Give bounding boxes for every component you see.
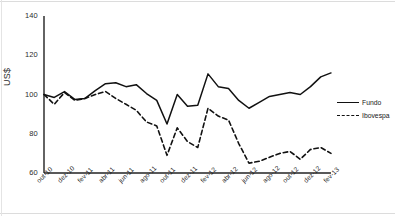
legend-item-ibovespa: Ibovespa: [337, 109, 390, 122]
chart-legend: Fundo Ibovespa: [337, 96, 390, 122]
axes: [44, 16, 331, 173]
legend-label-fundo: Fundo: [362, 99, 381, 106]
series-line-ibovespa: [44, 92, 331, 164]
plot-area: [0, 0, 395, 216]
legend-label-ibovespa: Ibovespa: [362, 112, 390, 119]
legend-item-fundo: Fundo: [337, 96, 390, 109]
data-series-layer: [44, 73, 331, 163]
chart-figure: US$ 6080100120140 out-10dez-10fev-11abr-…: [0, 0, 395, 216]
